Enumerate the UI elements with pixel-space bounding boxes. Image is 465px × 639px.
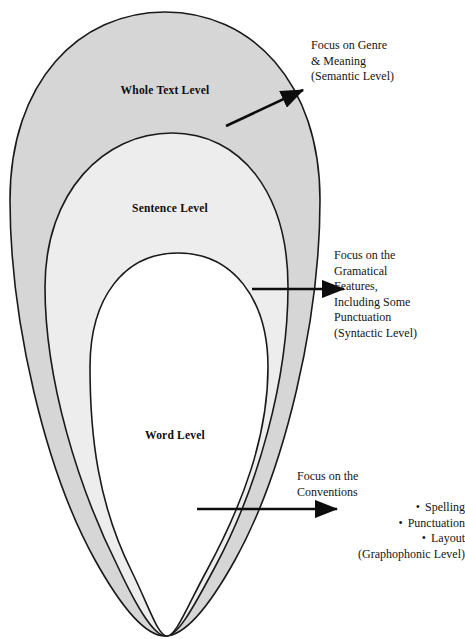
- list-item: •Punctuation: [297, 516, 465, 532]
- sentence-level-label: Sentence Level: [0, 202, 340, 214]
- annotation-line: Gramatical: [334, 264, 465, 280]
- whole-text-level-label: Whole Text Level: [0, 84, 330, 96]
- graphophonic-level-closing-line: (Graphophonic Level): [297, 547, 465, 563]
- list-item-label: Spelling: [425, 500, 465, 514]
- diagram-page: Whole Text Level Sentence Level Word Lev…: [0, 0, 465, 639]
- graphophonic-level-annotation: Focus on the Conventions •Spelling •Punc…: [297, 469, 465, 562]
- annotation-line: (Syntactic Level): [334, 326, 465, 342]
- annotation-line: Including Some: [334, 295, 465, 311]
- annotation-line: Features,: [334, 279, 465, 295]
- annotation-line: Punctuation: [334, 310, 465, 326]
- annotation-line: Focus on Genre: [311, 38, 461, 54]
- annotation-line: & Meaning: [311, 54, 461, 70]
- syntactic-level-annotation: Focus on the Gramatical Features, Includ…: [334, 248, 465, 341]
- bullet-dot-icon: •: [422, 531, 426, 545]
- list-item: •Layout: [297, 531, 465, 547]
- list-item-label: Punctuation: [408, 516, 465, 530]
- annotation-line: Conventions: [297, 485, 465, 501]
- annotation-line: (Semantic Level): [311, 69, 461, 85]
- bullet-dot-icon: •: [416, 500, 420, 514]
- semantic-level-annotation: Focus on Genre & Meaning (Semantic Level…: [311, 38, 461, 85]
- bullet-dot-icon: •: [398, 516, 402, 530]
- word-level-label: Word Level: [0, 429, 350, 441]
- list-item-label: Layout: [431, 531, 465, 545]
- annotation-line: Focus on the: [297, 469, 465, 485]
- annotation-line: Focus on the: [334, 248, 465, 264]
- list-item: •Spelling: [297, 500, 465, 516]
- conventions-bullet-list: •Spelling •Punctuation •Layout: [297, 500, 465, 547]
